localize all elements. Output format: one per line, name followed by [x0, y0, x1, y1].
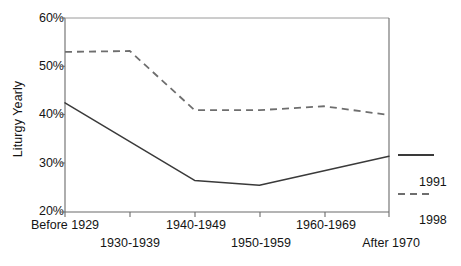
series-line-1991	[65, 103, 389, 185]
series-line-1998	[65, 51, 389, 115]
x-axis-ticks	[65, 212, 389, 217]
plot-area	[0, 0, 461, 266]
legend-swatches	[398, 155, 434, 194]
liturgy-yearly-line-chart: Liturgy Yearly 60% 50% 40% 30% 20% Befor…	[0, 0, 461, 266]
y-axis-ticks	[60, 18, 65, 212]
